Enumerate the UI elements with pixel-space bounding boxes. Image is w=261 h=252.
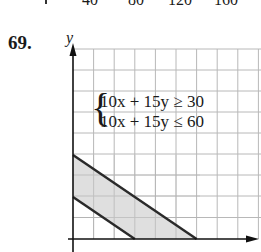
- inequality-1: 10x + 15y ≥ 30: [100, 92, 204, 112]
- brace-icon: {: [91, 88, 110, 128]
- x-axis-arrow-icon: [246, 236, 259, 243]
- inequality-2: 10x + 15y ≤ 60: [100, 112, 204, 132]
- inequality-system: { 10x + 15y ≥ 30 10x + 15y ≤ 60: [100, 92, 204, 132]
